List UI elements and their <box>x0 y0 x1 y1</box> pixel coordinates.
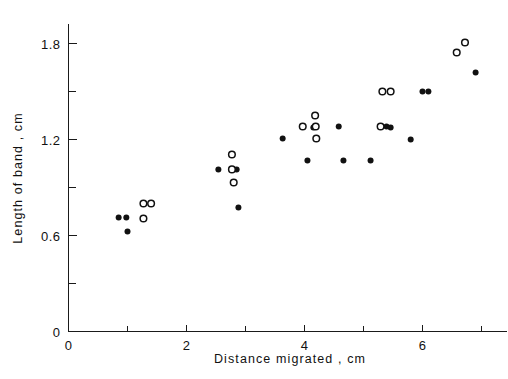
scatter-plot-figure: 024600.61.21.8 Distance migrated , cm Le… <box>0 0 508 379</box>
data-point-filled <box>368 157 374 163</box>
data-point-filled <box>388 125 394 131</box>
y-tick-label: 1.8 <box>41 37 61 52</box>
data-point-filled <box>304 157 310 163</box>
data-point-open <box>148 200 155 207</box>
data-point-filled <box>123 214 129 220</box>
x-tick-label: 0 <box>65 338 73 353</box>
y-axis-label: Length of band , cm <box>11 112 25 243</box>
axes-group <box>69 24 508 332</box>
x-tick-label: 4 <box>301 338 309 353</box>
data-point-open <box>313 135 320 142</box>
y-tick-label: 0 <box>53 325 61 340</box>
plot-canvas: 024600.61.21.8 Distance migrated , cm Le… <box>0 0 508 379</box>
data-point-open <box>230 179 237 186</box>
data-point-filled <box>340 157 346 163</box>
data-point-filled <box>280 136 286 142</box>
data-point-filled <box>235 205 241 211</box>
data-point-open <box>312 112 319 119</box>
data-point-open <box>379 88 386 95</box>
data-point-open <box>229 166 236 173</box>
data-point-filled <box>125 229 131 235</box>
y-tick-label: 0.6 <box>41 229 61 244</box>
data-point-open <box>453 49 460 56</box>
x-tick-label: 2 <box>183 338 191 353</box>
data-point-open <box>462 39 469 46</box>
data-point-open <box>229 151 236 158</box>
data-point-filled <box>425 89 431 95</box>
data-point-open <box>299 123 306 130</box>
data-point-filled <box>336 124 342 130</box>
tick-labels-group: 024600.61.21.8 <box>41 37 426 353</box>
ticks-group <box>69 44 482 332</box>
data-point-open <box>140 215 147 222</box>
y-tick-label: 1.2 <box>41 133 61 148</box>
data-point-open <box>140 200 147 207</box>
x-tick-label: 6 <box>419 338 427 353</box>
data-point-open <box>387 88 394 95</box>
data-point-open <box>312 123 319 130</box>
data-point-filled <box>420 89 426 95</box>
data-point-filled <box>408 137 414 143</box>
data-point-open <box>377 123 384 130</box>
data-point-filled <box>215 166 221 172</box>
x-axis-label: Distance migrated , cm <box>214 352 366 366</box>
data-point-filled <box>116 214 122 220</box>
data-points-group <box>116 39 479 234</box>
data-point-filled <box>473 69 479 75</box>
